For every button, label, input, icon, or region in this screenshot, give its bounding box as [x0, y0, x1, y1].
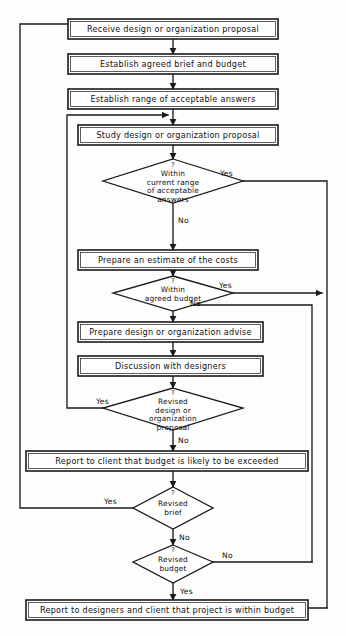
- decision-revised-proposal[interactable]: ? Revised design or organization proposa…: [103, 388, 243, 432]
- process-box-study[interactable]: Study design or organization proposal: [78, 125, 278, 145]
- process-box-discussion-label: Discussion with designers: [115, 361, 226, 371]
- decision-within-budget-line-1: Within: [161, 285, 186, 294]
- process-box-receive-label: Receive design or organization proposal: [87, 24, 259, 34]
- process-box-report-final[interactable]: Report to designers and client that proj…: [26, 600, 308, 620]
- process-box-brief[interactable]: Establish agreed brief and budget: [68, 54, 278, 74]
- decision-within-budget-marker: ?: [171, 277, 174, 285]
- process-box-advise-label: Prepare design or organization advise: [89, 327, 251, 337]
- process-box-receive[interactable]: Receive design or organization proposal: [68, 19, 278, 39]
- edge-label-revised-proposal-no: No: [178, 436, 189, 445]
- flowchart-diagram: Receive design or organization proposal …: [0, 0, 346, 636]
- decision-revised-budget[interactable]: ? Revised budget: [133, 545, 213, 583]
- decision-revised-proposal-line-4: proposal: [157, 423, 190, 432]
- process-box-range[interactable]: Establish range of acceptable answers: [68, 89, 278, 109]
- edge-label-within-range-yes: Yes: [219, 169, 233, 178]
- decision-revised-brief-line-1: Revised: [158, 499, 188, 508]
- process-box-advise[interactable]: Prepare design or organization advise: [78, 322, 263, 342]
- process-box-brief-label: Establish agreed brief and budget: [100, 59, 246, 69]
- edge-label-within-budget-no: No: [190, 299, 201, 308]
- edge-label-revised-brief-yes: Yes: [103, 497, 117, 506]
- edge-label-revised-budget-no: No: [222, 551, 233, 560]
- decision-within-range[interactable]: ? Within current range of acceptable ans…: [103, 159, 243, 204]
- edge-label-revised-budget-yes: Yes: [179, 587, 193, 596]
- decision-revised-budget-line-2: budget: [159, 564, 186, 573]
- process-box-discussion[interactable]: Discussion with designers: [78, 356, 263, 376]
- edge-label-within-budget-yes: Yes: [218, 281, 232, 290]
- decision-revised-budget-line-1: Revised: [158, 555, 188, 564]
- decision-revised-brief-marker: ?: [171, 489, 174, 497]
- process-box-estimate[interactable]: Prepare an estimate of the costs: [78, 250, 258, 270]
- process-box-report-final-label: Report to designers and client that proj…: [40, 605, 294, 615]
- process-box-range-label: Establish range of acceptable answers: [90, 94, 255, 104]
- decision-revised-proposal-marker: ?: [171, 389, 174, 397]
- edge-label-revised-brief-no: No: [179, 533, 190, 542]
- process-box-report-client-label: Report to client that budget is likely t…: [55, 456, 279, 466]
- edge-revised-budget-no-rail: [178, 305, 312, 562]
- decision-within-range-marker: ?: [171, 161, 174, 169]
- decision-within-range-line-4: answers: [157, 195, 189, 204]
- decision-revised-brief[interactable]: ? Revised brief: [133, 487, 213, 529]
- edge-label-revised-proposal-yes: Yes: [95, 397, 109, 406]
- process-box-report-client[interactable]: Report to client that budget is likely t…: [26, 451, 308, 471]
- decision-revised-budget-marker: ?: [171, 546, 174, 554]
- decision-within-budget[interactable]: ? Within agreed budget: [113, 276, 233, 311]
- flowchart-canvas: Receive design or organization proposal …: [0, 0, 346, 636]
- decision-revised-brief-line-2: brief: [164, 508, 182, 517]
- process-box-study-label: Study design or organization proposal: [96, 130, 259, 140]
- edge-label-within-range-no: No: [178, 216, 189, 225]
- process-box-estimate-label: Prepare an estimate of the costs: [98, 255, 238, 265]
- edge-within-range-yes-to-final: [208, 181, 327, 608]
